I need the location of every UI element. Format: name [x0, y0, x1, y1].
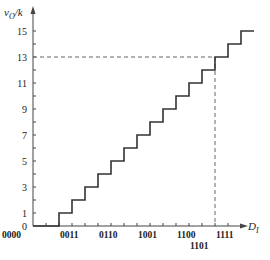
y-tick-label: 0	[22, 221, 27, 232]
x-tick-labels: 0000001101101001110011011111	[2, 230, 234, 251]
staircase-line	[33, 31, 254, 226]
axes	[31, 6, 249, 229]
y-tick-label: 13	[17, 52, 27, 63]
y-tick-label: 7	[22, 130, 27, 141]
x-tick-label: 0000	[2, 230, 21, 240]
dashed-guides	[33, 57, 215, 226]
x-tick-label: 1001	[138, 230, 157, 240]
y-tick-label: 3	[22, 182, 27, 193]
y-tick-label: 15	[17, 26, 27, 37]
x-tick-label: 0110	[99, 230, 118, 240]
x-tick-label: 1111	[216, 230, 234, 240]
x-axis-arrow-icon	[240, 224, 248, 229]
y-tick-labels: 013579111315	[17, 26, 27, 232]
y-tick-label: 11	[17, 78, 27, 89]
x-tick-label: 1100	[177, 230, 196, 240]
x-tick-label: 0011	[60, 230, 79, 240]
x-axis-title: DI	[247, 220, 259, 235]
y-tick-label: 5	[22, 156, 27, 167]
ticks	[33, 31, 228, 226]
y-tick-label: 9	[22, 104, 27, 115]
y-axis-arrow-icon	[31, 6, 36, 14]
y-axis-title: vO/k	[4, 6, 24, 21]
staircase-chart: 013579111315 000000110110100111001101111…	[0, 0, 270, 260]
x-tick-label: 1101	[190, 241, 209, 251]
y-tick-label: 1	[22, 208, 27, 219]
